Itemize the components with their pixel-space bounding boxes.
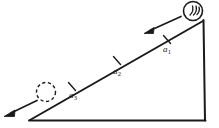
rolling-body-ghost-outline xyxy=(37,83,56,102)
label-a2-subscript: 2 xyxy=(118,70,121,77)
label-acceleration-a3: a3 xyxy=(69,91,77,100)
label-acceleration-a1: a1 xyxy=(163,45,171,54)
incline-vertical-side xyxy=(204,20,206,121)
physics-figure: a1 a2 a3 xyxy=(0,0,219,128)
label-a1-subscript: 1 xyxy=(168,48,171,55)
incline-diagram-canvas xyxy=(0,0,219,128)
arrow-upper-head xyxy=(144,28,154,34)
arrow-upper-downslope xyxy=(144,17,181,34)
tick-mark-a2 xyxy=(114,57,121,65)
arrow-lower-head xyxy=(4,110,15,117)
hypotenuse-tick-marks xyxy=(69,36,171,91)
rolling-body-ghost xyxy=(37,83,56,102)
rolling-body-top xyxy=(184,2,203,21)
label-acceleration-a2: a2 xyxy=(113,67,121,76)
arrow-upper-shaft xyxy=(150,17,181,31)
arrow-lower-downslope xyxy=(4,101,37,117)
label-a3-subscript: 3 xyxy=(74,94,77,101)
